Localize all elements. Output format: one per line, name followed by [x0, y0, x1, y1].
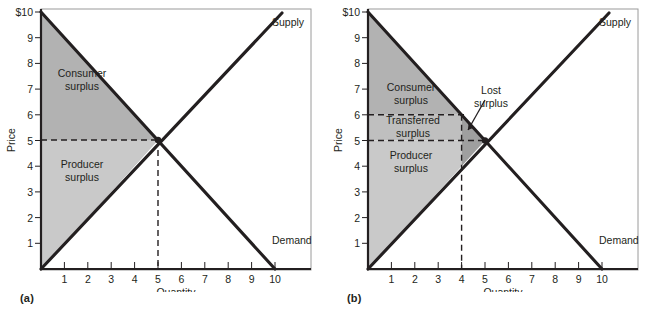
y-tick-label-a-3: 3 [27, 186, 33, 198]
y-tick-label-b-3: 3 [354, 186, 360, 198]
y-tick-label-b-8: 8 [354, 57, 360, 69]
x-tick-label-b-10: 10 [596, 273, 608, 285]
y-tick-label-b-5: 5 [354, 135, 360, 147]
x-tick-label-a-7: 7 [202, 273, 208, 285]
y-tick-label-a-4: 4 [27, 160, 33, 172]
y-tick-label-a-7: 7 [27, 83, 33, 95]
x-tick-label-b-8: 8 [552, 273, 558, 285]
consumer-surplus-label-line1: Consumer [58, 67, 107, 79]
y-tick-label-b-7: 7 [354, 83, 360, 95]
y-tick-label-a-10: $10 [15, 6, 33, 18]
x-tick-label-b-2: 2 [412, 273, 418, 285]
demand-curve-label-b: Demand [599, 234, 639, 246]
x-axis-title-b: Quantity [483, 286, 523, 292]
x-tick-label-a-9: 9 [249, 273, 255, 285]
x-tick-label-a-3: 3 [108, 273, 114, 285]
consumer-surplus-label-line2: surplus [65, 80, 99, 92]
equilibrium-point-b [482, 137, 488, 143]
lost-surplus-label-line1: Lost [481, 84, 501, 96]
y-tick-label-a-9: 9 [27, 32, 33, 44]
region-label-producer-surplus-a: Producer surplus [61, 158, 104, 183]
y-tick-label-a-1: 1 [27, 237, 33, 249]
y-axis-title-b: Price [332, 128, 344, 152]
lost-surplus-label-line2: surplus [474, 97, 508, 109]
supply-curve-label-b: Supply [599, 16, 632, 28]
transferred-surplus-label-line1-b: Transferred [386, 114, 440, 126]
consumer-surplus-label-line2-b: surplus [394, 94, 428, 106]
y-tick-label-a-2: 2 [27, 212, 33, 224]
producer-surplus-label-line2-b: surplus [394, 162, 428, 174]
y-tick-label-b-10: $10 [342, 6, 360, 18]
producer-surplus-label-line2: surplus [65, 171, 99, 183]
y-tick-label-a-6: 6 [27, 109, 33, 121]
y-tick-label-b-1: 1 [354, 237, 360, 249]
producer-surplus-label-line1-b: Producer [390, 149, 433, 161]
y-tick-label-b-4: 4 [354, 160, 360, 172]
y-tick-label-a-8: 8 [27, 57, 33, 69]
panel-a: $10 9 8 7 6 5 4 3 2 1 [0, 0, 327, 316]
producer-surplus-label-line1: Producer [61, 158, 104, 170]
figure-surplus-diagrams: $10 9 8 7 6 5 4 3 2 1 [0, 0, 654, 316]
panel-b: $10 9 8 7 6 5 4 3 2 1 [327, 0, 654, 316]
region-label-producer-surplus-b: Producer surplus [390, 149, 433, 174]
x-tick-label-b-5: 5 [482, 273, 488, 285]
chart-a: $10 9 8 7 6 5 4 3 2 1 [0, 0, 327, 292]
y-tick-label-b-2: 2 [354, 212, 360, 224]
x-tick-label-a-8: 8 [225, 273, 231, 285]
x-tick-label-a-10: 10 [269, 273, 281, 285]
x-tick-label-b-3: 3 [435, 273, 441, 285]
y-tick-label-b-6: 6 [354, 109, 360, 121]
x-axis-title-a: Quantity [156, 286, 196, 292]
x-tick-label-b-6: 6 [505, 273, 511, 285]
supply-curve-label-a: Supply [272, 16, 305, 28]
demand-curve-label-a: Demand [272, 234, 312, 246]
x-tick-label-b-7: 7 [529, 273, 535, 285]
panel-caption-a: (a) [20, 292, 34, 304]
y-axis-title-a: Price [5, 128, 17, 152]
x-tick-label-a-5: 5 [155, 273, 161, 285]
y-tick-label-a-5: 5 [27, 135, 33, 147]
consumer-surplus-label-line1-b: Consumer [387, 81, 436, 93]
x-tick-label-a-1: 1 [61, 273, 67, 285]
transferred-surplus-label-line2-b: surplus [396, 127, 430, 139]
x-tick-label-a-6: 6 [178, 273, 184, 285]
chart-b: $10 9 8 7 6 5 4 3 2 1 [327, 0, 654, 292]
x-tick-label-a-4: 4 [132, 273, 138, 285]
x-tick-label-b-4: 4 [459, 273, 465, 285]
y-tick-label-b-9: 9 [354, 32, 360, 44]
panel-caption-b: (b) [347, 292, 362, 304]
x-tick-label-b-1: 1 [388, 273, 394, 285]
x-tick-label-b-9: 9 [576, 273, 582, 285]
x-tick-label-a-2: 2 [85, 273, 91, 285]
equilibrium-point-a [155, 137, 161, 143]
